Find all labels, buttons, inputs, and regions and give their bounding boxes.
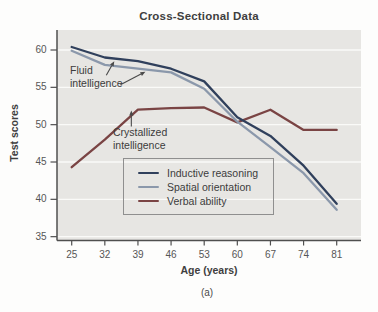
y-axis-label: Test scores — [8, 93, 20, 173]
x-tick-label: 25 — [60, 249, 84, 260]
cross-sectional-data-figure: Cross-Sectional Data Test scores Age (ye… — [0, 0, 378, 312]
subfigure-caption: (a) — [187, 287, 227, 298]
legend-box: Inductive reasoningSpatial orientationVe… — [123, 158, 274, 215]
x-tick-label: 53 — [192, 249, 216, 260]
y-tick-label: 55 — [25, 81, 47, 92]
x-tick-label: 67 — [258, 249, 282, 260]
legend-item: Verbal ability — [138, 194, 273, 208]
x-axis-label: Age (years) — [57, 264, 361, 276]
legend-item: Inductive reasoning — [138, 166, 273, 180]
y-tick-label: 60 — [25, 44, 47, 55]
legend-label: Spatial orientation — [167, 181, 251, 193]
y-tick-label: 50 — [25, 119, 47, 130]
legend-swatch-spatial-orientation — [138, 186, 159, 189]
legend-swatch-verbal-ability — [138, 200, 159, 203]
x-tick-label: 81 — [325, 249, 349, 260]
legend-label: Verbal ability — [167, 195, 227, 207]
x-tick-label: 46 — [159, 249, 183, 260]
x-tick-label: 32 — [93, 249, 117, 260]
legend-swatch-inductive-reasoning — [138, 172, 159, 175]
legend-label: Inductive reasoning — [167, 167, 258, 179]
annotation-fluid-intelligence: Fluid intelligence — [70, 64, 134, 89]
legend-item: Spatial orientation — [138, 180, 273, 194]
y-tick-label: 40 — [25, 193, 47, 204]
y-tick-label: 35 — [25, 231, 47, 242]
x-tick-label: 39 — [126, 249, 150, 260]
x-tick-label: 74 — [292, 249, 316, 260]
y-tick-label: 45 — [25, 156, 47, 167]
x-tick-label: 60 — [225, 249, 249, 260]
annotation-crystallized-intelligence: Crystallized intelligence — [113, 126, 183, 151]
